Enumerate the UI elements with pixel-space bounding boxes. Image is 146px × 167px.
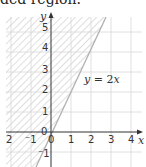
svg-text:3: 3 bbox=[108, 134, 114, 145]
inequality-graph: y x 2 ⁻1 0 1 2 3 4 5 4 3 2 1 0 ⁻1 y = 2x bbox=[0, 0, 146, 167]
svg-text:2: 2 bbox=[6, 134, 12, 145]
x-axis-label: x bbox=[138, 134, 145, 147]
svg-text:⁻1: ⁻1 bbox=[25, 134, 37, 145]
svg-text:5: 5 bbox=[42, 22, 48, 33]
x-tick-labels: 2 ⁻1 0 1 2 3 4 bbox=[6, 134, 134, 145]
svg-text:1: 1 bbox=[42, 106, 48, 117]
svg-text:2: 2 bbox=[42, 84, 48, 95]
svg-text:0: 0 bbox=[48, 134, 54, 145]
svg-text:4: 4 bbox=[128, 134, 134, 145]
line-equation-label: y = 2x bbox=[83, 73, 120, 86]
svg-text:4: 4 bbox=[42, 42, 48, 53]
svg-text:0: 0 bbox=[41, 126, 47, 137]
svg-text:1: 1 bbox=[68, 134, 74, 145]
svg-text:⁻1: ⁻1 bbox=[38, 148, 50, 159]
svg-text:3: 3 bbox=[42, 64, 48, 75]
svg-text:2: 2 bbox=[88, 134, 94, 145]
y-axis-arrow-icon bbox=[49, 12, 54, 18]
